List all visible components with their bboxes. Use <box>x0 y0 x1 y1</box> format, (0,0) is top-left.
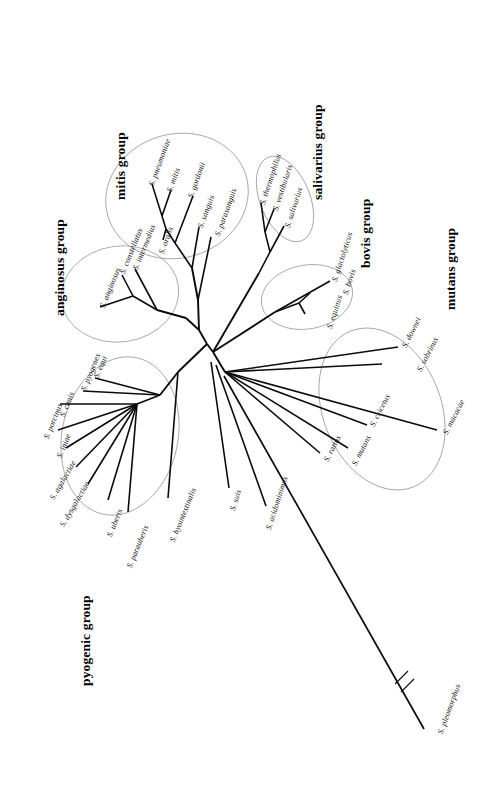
ellipse-anginosus-group <box>55 238 185 349</box>
edge-pyogenic-dysgalactiae <box>88 404 137 484</box>
edge-root-core <box>207 344 213 352</box>
edge-bovis-stem <box>213 312 275 352</box>
edge-salivarius-stem <box>213 273 259 352</box>
edge-salivarius-subnode <box>265 232 270 252</box>
edge-core-to-upper <box>199 330 207 344</box>
edge-mitis-pneumoniae <box>152 184 162 216</box>
edge-pyogenic-hyointestinalis <box>168 372 178 498</box>
figure-canvas: anginosus group mitis group salivarius g… <box>0 0 495 792</box>
edge-mitis-parasanguis <box>198 237 211 300</box>
edge-pyogenic-node-a <box>160 372 178 395</box>
edge-mitis-stem <box>198 300 199 330</box>
group-label-mutans: mutans group <box>443 228 459 310</box>
edge-pyogenic-stem <box>178 344 207 372</box>
group-label-anginosus: anginosus group <box>52 219 68 316</box>
edge-mutans-rattus <box>225 372 320 453</box>
group-label-bovis: bovis group <box>358 199 374 268</box>
edge-mutans-stem <box>213 352 225 372</box>
edge-pyogenic-node-b <box>137 395 160 404</box>
group-label-salivarius: salivarius group <box>310 104 326 200</box>
edge-anginosus-stem <box>157 310 186 318</box>
edge-bovis-equinus <box>299 303 305 314</box>
edge-mitis-gordonii <box>175 196 193 243</box>
edge-salivarius-node <box>259 252 270 273</box>
edge-pleomorphus <box>224 376 424 729</box>
branch-break-mark <box>395 671 414 692</box>
edge-anginosus-constellatus <box>122 275 133 296</box>
edge-salivarius-salivarius <box>270 226 284 252</box>
edge-mitis-inner-stem <box>175 243 192 268</box>
edge-mitis-sanguis <box>192 227 199 268</box>
edge-mitis-mitis <box>162 190 171 216</box>
edge-salivarius-vestibularis <box>265 209 274 232</box>
tree-edges <box>58 184 437 729</box>
group-label-mitis: mitis group <box>113 132 129 200</box>
group-ellipses <box>47 117 469 527</box>
edge-salivarius-thermophilus <box>261 203 265 232</box>
edge-upper-split <box>186 318 199 330</box>
edge-mutans-macacae <box>225 372 437 430</box>
group-label-pyogenic: pyogenic group <box>78 595 94 686</box>
edge-bovis-glactolyticus <box>275 281 330 312</box>
edge-mitis-node <box>192 268 198 300</box>
